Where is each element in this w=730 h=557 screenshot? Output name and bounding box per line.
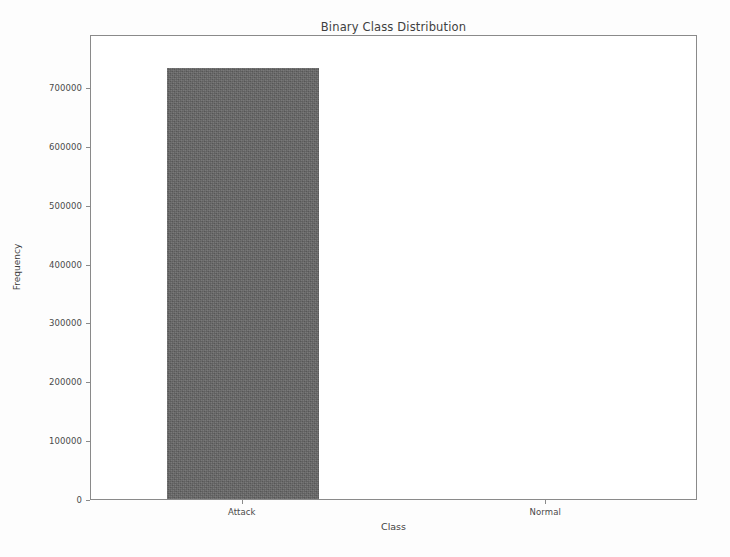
x-tick-mark [545, 500, 546, 504]
y-tick-mark [86, 441, 90, 442]
y-tick-label: 300000 [49, 318, 82, 328]
y-tick-mark [86, 88, 90, 89]
y-tick-mark [86, 323, 90, 324]
plot-area [90, 35, 697, 500]
y-tick-label: 500000 [49, 201, 82, 211]
y-tick-mark [86, 265, 90, 266]
x-tick-mark [242, 500, 243, 504]
y-tick-mark [86, 382, 90, 383]
y-tick-label: 700000 [49, 83, 82, 93]
x-axis-label: Class [90, 521, 697, 532]
y-tick-label: 400000 [49, 260, 82, 270]
y-tick-mark [86, 147, 90, 148]
y-tick-mark [86, 500, 90, 501]
y-tick-label: 0 [76, 495, 82, 505]
chart-title: Binary Class Distribution [90, 20, 697, 34]
y-tick-mark [86, 206, 90, 207]
y-tick-label: 600000 [49, 142, 82, 152]
bar-series [91, 36, 696, 499]
x-tick-label: Attack [228, 507, 256, 517]
bar-attack [167, 68, 319, 499]
x-tick-label: Normal [530, 507, 561, 517]
y-tick-label: 100000 [49, 436, 82, 446]
y-tick-label: 200000 [49, 377, 82, 387]
y-axis-label: Frequency [12, 244, 22, 291]
chart-figure: Binary Class Distribution 01000002000003… [0, 0, 730, 557]
